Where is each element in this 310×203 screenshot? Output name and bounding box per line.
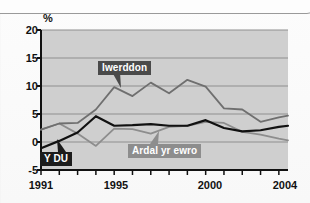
x-tick-label-1991: 1991 bbox=[19, 179, 63, 191]
x-tick-label-2004: 2004 bbox=[263, 179, 307, 191]
series-annotation-iwerddon: Iwerddon bbox=[98, 61, 151, 75]
y-tick-label-5: 5 bbox=[8, 108, 38, 120]
series-annotation-ardal-yr-ewro: Ardal yr ewro bbox=[128, 144, 201, 158]
x-tick-label-2000: 2000 bbox=[188, 179, 232, 191]
series-annotation-y-du: Y DU bbox=[40, 152, 72, 166]
line-chart-svg bbox=[0, 0, 310, 203]
y-tick-label-15: 15 bbox=[8, 52, 38, 64]
y-tick-label-minus5: -5 bbox=[8, 164, 38, 176]
y-tick-label-0: 0 bbox=[8, 136, 38, 148]
x-tick-label-1995: 1995 bbox=[94, 179, 138, 191]
y-tick-label-20: 20 bbox=[8, 24, 38, 36]
y-tick-label-10: 10 bbox=[8, 80, 38, 92]
chart-page: % 20 15 10 5 0 -5 1991 1995 2000 2004 Iw… bbox=[0, 0, 310, 203]
